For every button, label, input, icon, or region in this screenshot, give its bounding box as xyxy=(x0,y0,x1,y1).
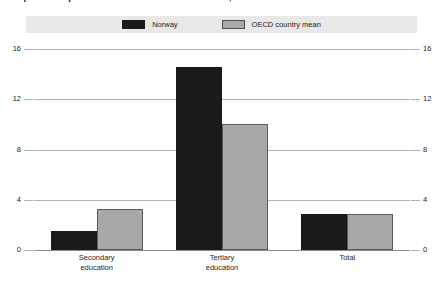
legend-item-norway: Norway xyxy=(122,20,177,29)
legend-swatch-icon-norway xyxy=(122,20,145,29)
tick-stub-left-16 xyxy=(24,49,33,50)
tick-stub-left-8 xyxy=(24,150,33,151)
y-axis-label-left-16: 16 xyxy=(13,45,21,53)
y-axis-label-left-12: 12 xyxy=(13,95,21,103)
bar-norway-1 xyxy=(176,67,222,250)
y-axis-label-right-12: 12 xyxy=(423,95,431,103)
bar-norway-2 xyxy=(301,214,347,250)
gridline-0 xyxy=(34,250,410,251)
x-axis-label-2: Total xyxy=(339,253,355,263)
tick-stub-right-8 xyxy=(411,150,420,151)
tick-stub-left-12 xyxy=(24,99,33,100)
tick-stub-left-4 xyxy=(24,200,33,201)
tick-stub-right-0 xyxy=(411,250,420,251)
figure-number: 9. xyxy=(2,0,10,2)
tick-stub-right-12 xyxy=(411,99,420,100)
bar-oecd-2 xyxy=(347,214,393,250)
plot-area: 16161212884400 xyxy=(34,49,410,250)
bars-layer xyxy=(34,49,410,250)
bar-oecd-0 xyxy=(97,209,143,250)
tick-stub-right-4 xyxy=(411,200,420,201)
y-axis-label-left-4: 4 xyxy=(17,196,21,204)
y-axis-label-right-4: 4 xyxy=(423,196,427,204)
x-axis-label-1: Tertiary education xyxy=(206,253,239,272)
legend-label-norway: Norway xyxy=(152,20,177,29)
y-axis-label-right-0: 0 xyxy=(423,246,427,254)
bar-norway-0 xyxy=(51,231,97,250)
bar-oecd-1 xyxy=(222,124,268,250)
y-axis-label-right-8: 8 xyxy=(423,146,427,154)
chart-legend: Norway OECD country mean xyxy=(26,16,417,33)
legend-swatch-icon-oecd xyxy=(222,20,245,29)
tick-stub-left-0 xyxy=(24,250,33,251)
legend-label-oecd: OECD country mean xyxy=(252,20,321,29)
chart-title-strip: 9. Expenditure per student in education … xyxy=(0,0,443,9)
x-axis-labels: Secondary educationTertiary educationTot… xyxy=(34,253,410,281)
y-axis-label-left-8: 8 xyxy=(17,146,21,154)
page-title: Expenditure per student in education ins… xyxy=(12,0,255,2)
tick-stub-right-16 xyxy=(411,49,420,50)
x-axis-label-0: Secondary education xyxy=(79,253,115,272)
y-axis-label-left-0: 0 xyxy=(17,246,21,254)
legend-item-oecd: OECD country mean xyxy=(222,20,321,29)
y-axis-label-right-16: 16 xyxy=(423,45,431,53)
